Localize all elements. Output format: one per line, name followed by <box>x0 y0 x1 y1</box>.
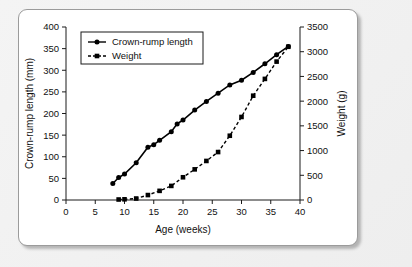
series-marker-0 <box>157 138 162 143</box>
series-marker-0 <box>181 117 186 122</box>
series-marker-0 <box>204 99 209 104</box>
y-axis-left-tick-label: 100 <box>43 151 59 162</box>
growth-chart: 0501001502002503003504000500100015002000… <box>19 10 359 247</box>
series-marker-0 <box>122 172 127 177</box>
series-marker-1 <box>181 175 186 180</box>
figure-root: 0501001502002503003504000500100015002000… <box>0 0 412 267</box>
x-axis-tick-label: 15 <box>148 206 159 217</box>
y-axis-right-tick-label: 1500 <box>307 120 328 131</box>
x-axis-tick-label: 30 <box>236 206 247 217</box>
x-axis-title: Age (weeks) <box>155 224 211 235</box>
y-axis-right-title: Weight (g) <box>336 91 347 137</box>
series-marker-1 <box>169 184 174 189</box>
y-axis-left-tick-label: 50 <box>48 173 59 184</box>
x-axis-tick-label: 0 <box>63 206 68 217</box>
x-axis-tick-label: 20 <box>178 206 189 217</box>
series-marker-1 <box>116 197 121 202</box>
series-marker-1 <box>216 150 221 155</box>
y-axis-left-tick-label: 250 <box>43 86 59 97</box>
series-marker-0 <box>192 108 197 113</box>
series-marker-1 <box>192 167 197 172</box>
series-marker-0 <box>145 145 150 150</box>
series-marker-0 <box>216 91 221 96</box>
series-marker-1 <box>286 44 291 49</box>
series-line-1 <box>119 47 289 200</box>
x-axis-tick-label: 40 <box>295 206 306 217</box>
y-axis-right-tick-label: 1000 <box>307 145 328 156</box>
series-marker-0 <box>251 70 256 75</box>
series-marker-0 <box>134 160 139 165</box>
y-axis-right-tick-label: 2500 <box>307 71 328 82</box>
series-marker-1 <box>251 93 256 98</box>
y-axis-right-tick-label: 3500 <box>307 21 328 32</box>
y-axis-left-tick-label: 150 <box>43 130 59 141</box>
y-axis-right-tick-label: 2000 <box>307 96 328 107</box>
series-marker-0 <box>116 175 121 180</box>
y-axis-left-tick-label: 300 <box>43 65 59 76</box>
series-marker-1 <box>157 189 162 194</box>
series-marker-0 <box>169 129 174 134</box>
x-axis-tick-label: 25 <box>207 206 218 217</box>
figure-card: 0501001502002503003504000500100015002000… <box>18 9 358 246</box>
x-axis-tick-label: 35 <box>265 206 276 217</box>
legend-label-0: Crown-rump length <box>112 36 193 47</box>
y-axis-left-tick-label: 0 <box>54 194 59 205</box>
series-marker-1 <box>204 159 209 164</box>
series-marker-0 <box>110 181 115 186</box>
series-line-0 <box>113 46 288 183</box>
series-marker-1 <box>239 115 244 120</box>
y-axis-right-tick-label: 500 <box>307 170 323 181</box>
legend-marker-1 <box>95 54 100 59</box>
legend-label-1: Weight <box>112 50 142 61</box>
legend-marker-0 <box>95 40 100 45</box>
y-axis-left-tick-label: 200 <box>43 108 59 119</box>
series-marker-1 <box>146 193 151 198</box>
y-axis-right-tick-label: 0 <box>307 194 312 205</box>
x-axis-tick-label: 5 <box>93 206 98 217</box>
series-marker-1 <box>274 59 279 64</box>
series-marker-1 <box>134 196 139 201</box>
series-marker-0 <box>274 52 279 57</box>
series-marker-1 <box>122 197 127 202</box>
series-marker-1 <box>263 77 268 82</box>
series-marker-0 <box>239 78 244 83</box>
series-marker-1 <box>228 133 233 138</box>
x-axis-tick-label: 10 <box>119 206 130 217</box>
y-axis-left-title: Crown-rump length (mm) <box>24 58 35 169</box>
series-marker-0 <box>151 142 156 147</box>
series-marker-0 <box>227 82 232 87</box>
y-axis-left-tick-label: 400 <box>43 21 59 32</box>
series-marker-0 <box>262 61 267 66</box>
series-marker-0 <box>175 121 180 126</box>
y-axis-right-tick-label: 3000 <box>307 46 328 57</box>
y-axis-left-tick-label: 350 <box>43 43 59 54</box>
